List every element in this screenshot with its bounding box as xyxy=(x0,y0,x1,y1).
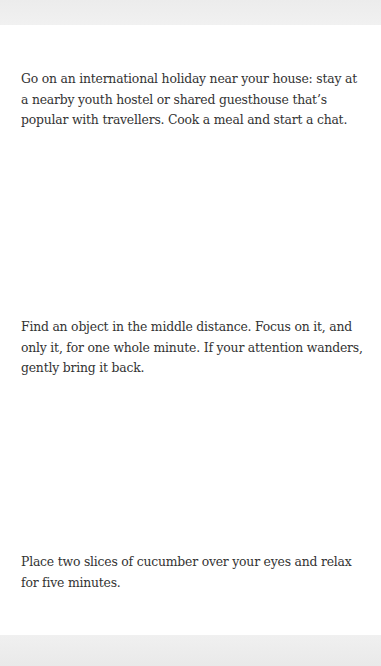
tip-text-holiday: Go on an international holiday near your… xyxy=(21,69,366,131)
bottom-band xyxy=(0,635,381,666)
tip-text-cucumber: Place two slices of cucumber over your e… xyxy=(21,552,366,593)
top-band xyxy=(0,0,381,25)
tip-text-focus: Find an object in the middle distance. F… xyxy=(21,317,366,379)
